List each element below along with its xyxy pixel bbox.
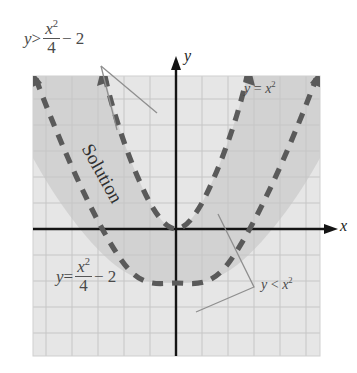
fraction-numerator-exponent: 2 (53, 18, 58, 29)
y-axis-arrowhead (171, 56, 181, 70)
label-rhs-exponent: 2 (271, 79, 275, 89)
label-equation-top-right: y = x2 (244, 82, 276, 96)
fraction-x-squared-over-four: x2 4 (75, 258, 92, 296)
label-inequality-top-left: y> x2 4 − 2 (24, 20, 84, 58)
fraction-denominator: 4 (43, 39, 60, 58)
fraction-numerator-variable: x (45, 19, 53, 38)
label-lhs: y (261, 277, 267, 292)
fraction-numerator-exponent: 2 (85, 256, 90, 267)
label-equation-bottom-left: y= x2 4 − 2 (56, 258, 116, 296)
label-relation: = (254, 81, 262, 96)
label-relation: = (64, 267, 74, 286)
label-relation: > (32, 29, 42, 48)
label-lhs: y (244, 81, 250, 96)
label-rhs-exponent: 2 (288, 275, 292, 285)
label-tail: − 2 (94, 267, 116, 286)
fraction-denominator: 4 (75, 277, 92, 296)
label-inequality-bottom-right: y < x2 (261, 278, 293, 292)
label-relation: < (271, 277, 279, 292)
y-axis-label: y (184, 48, 191, 64)
x-axis-label: x (340, 218, 347, 234)
x-axis-arrowhead (324, 224, 338, 234)
fraction-x-squared-over-four: x2 4 (43, 20, 60, 58)
fraction-numerator-variable: x (77, 257, 85, 276)
label-lhs: y (56, 267, 64, 286)
label-lhs: y (24, 29, 32, 48)
label-tail: − 2 (62, 29, 84, 48)
quadratic-inequality-figure: y> x2 4 − 2 y = x2 y= x2 4 − 2 y < x2 y … (0, 0, 357, 373)
